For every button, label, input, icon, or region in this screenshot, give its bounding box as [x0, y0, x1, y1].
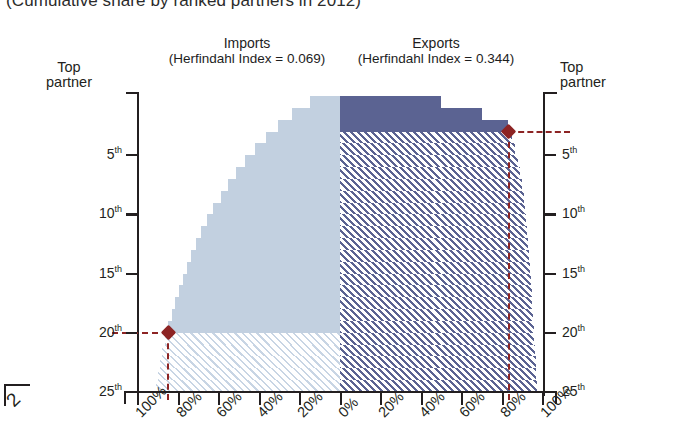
- imports-title: Imports: [152, 36, 342, 51]
- area-step: [201, 226, 340, 238]
- area-step: [340, 321, 534, 333]
- area-step: [340, 333, 534, 345]
- y-tick-left-15: [126, 273, 137, 275]
- area-step: [213, 203, 340, 215]
- top-partner-line2-left: partner: [46, 74, 92, 90]
- y-axis-left-top-label: Top partner: [14, 60, 124, 90]
- area-step: [340, 297, 532, 309]
- area-step: [158, 368, 340, 380]
- area-step: [340, 179, 522, 191]
- area-step: [196, 238, 340, 250]
- area-step: [221, 191, 340, 203]
- area-step: [266, 132, 340, 144]
- area-step: [340, 285, 532, 297]
- y-tick-right-15: [545, 273, 556, 275]
- marker-guide-vertical: [167, 333, 169, 400]
- area-step: [228, 179, 340, 191]
- top-partner-line1-left: Top: [57, 59, 80, 75]
- area-step: [340, 203, 525, 215]
- y-tick-left-5: [126, 154, 137, 156]
- area-step: [187, 262, 340, 274]
- y-tick-left-10: [126, 213, 137, 215]
- y-tick-right-20: [545, 332, 556, 334]
- area-step: [207, 214, 340, 226]
- area-step: [292, 108, 340, 120]
- marker-guide-horizontal: [509, 131, 570, 133]
- y-tick-label-left-10: 10th: [78, 204, 122, 221]
- area-step: [191, 250, 340, 262]
- area-step: [165, 333, 340, 345]
- y-tick-label-right-20: 20th: [562, 323, 585, 340]
- exports-series-area: [340, 96, 543, 392]
- area-step: [310, 96, 340, 108]
- area-step: [278, 120, 340, 132]
- area-step: [245, 155, 340, 167]
- y-tick-label-left-25: 25th: [78, 382, 122, 399]
- area-step: [340, 250, 529, 262]
- imports-herfindahl: (Herfindahl Index = 0.069): [152, 51, 342, 66]
- area-step: [340, 309, 533, 321]
- area-step: [172, 309, 340, 321]
- plot-area: [138, 96, 543, 392]
- y-axis-right-line: [543, 92, 545, 396]
- top-partner-line2-right: partner: [560, 74, 606, 90]
- area-step: [175, 297, 340, 309]
- area-step: [340, 167, 520, 179]
- y-axis-left-top-cap: [126, 92, 138, 94]
- area-step: [340, 108, 482, 120]
- area-step: [340, 356, 536, 368]
- area-step: [340, 345, 535, 357]
- imports-panel-heading: Imports (Herfindahl Index = 0.069): [152, 36, 342, 66]
- area-step: [340, 274, 531, 286]
- y-axis-right-top-label: Top partner: [560, 60, 670, 90]
- exports-herfindahl: (Herfindahl Index = 0.344): [338, 51, 534, 66]
- area-step: [340, 120, 508, 132]
- y-tick-label-right-10: 10th: [562, 204, 585, 221]
- y-axis-right-top-cap: [545, 92, 557, 94]
- imports-x-tick-label-0%: 0%: [335, 394, 361, 420]
- area-step: [255, 143, 340, 155]
- area-step: [340, 96, 441, 108]
- top-partner-line1-right: Top: [560, 59, 583, 75]
- area-step: [236, 167, 340, 179]
- y-tick-right-10: [545, 213, 556, 215]
- area-step: [340, 262, 530, 274]
- area-step: [340, 238, 528, 250]
- exports-title: Exports: [338, 36, 534, 51]
- area-step: [160, 356, 340, 368]
- y-tick-label-left-15: 15th: [78, 264, 122, 281]
- y-tick-label-right-5: 5th: [562, 145, 577, 162]
- y-tick-label-left-20: 20th: [78, 323, 122, 340]
- y-tick-right-5: [545, 154, 556, 156]
- area-step: [340, 191, 524, 203]
- y-tick-label-left-5: 5th: [78, 145, 122, 162]
- area-step: [179, 285, 340, 297]
- y-tick-left-20: [126, 332, 137, 334]
- exports-panel-heading: Exports (Herfindahl Index = 0.344): [338, 36, 534, 66]
- area-step: [168, 321, 340, 333]
- y-tick-left-25: [126, 391, 137, 393]
- y-axis-left-line: [137, 92, 139, 396]
- area-step: [340, 226, 527, 238]
- area-step: [340, 155, 518, 167]
- area-step: [340, 132, 512, 144]
- marker-guide-vertical: [508, 132, 510, 400]
- area-step: [183, 274, 340, 286]
- area-step: [340, 214, 526, 226]
- area-step: [340, 143, 515, 155]
- chart-subtitle: (Cumulative share by ranked partners in …: [6, 0, 426, 11]
- y-tick-label-right-15: 15th: [562, 264, 585, 281]
- area-step: [162, 345, 340, 357]
